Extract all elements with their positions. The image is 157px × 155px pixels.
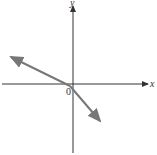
coordinate-plane: x y 0 [0, 0, 157, 155]
graph-line [70, 86, 100, 121]
origin-label: 0 [66, 86, 71, 97]
graph-line-upper [11, 57, 70, 86]
x-axis-label: x [149, 78, 155, 89]
y-axis-label: y [69, 0, 75, 8]
